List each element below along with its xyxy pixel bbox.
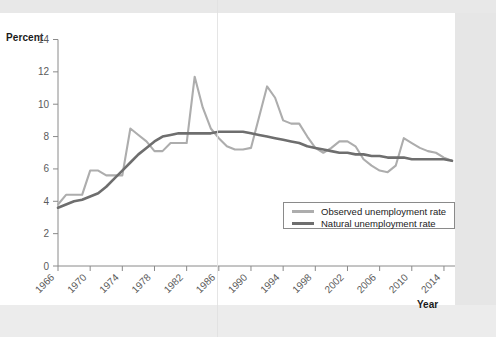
x-tick-label: 1994 [258,271,282,295]
x-tick-label: 1966 [33,271,57,295]
figure-panel: Percent Year 02468101214 196619701974197… [0,13,455,305]
y-tick-label: 4 [43,196,49,207]
x-tick-label: 1998 [290,271,314,295]
screenshot-root: Percent Year 02468101214 196619701974197… [0,0,496,337]
y-tick-label: 14 [38,34,50,45]
series-line-natural [58,132,452,208]
legend-label-observed: Observed unemployment rate [321,206,446,217]
x-tick-label: 1974 [97,271,121,295]
legend-swatch-natural [292,222,314,225]
x-tick-label: 2006 [355,271,379,295]
x-tick-label: 2010 [387,271,411,295]
line-chart: 02468101214 1966197019741978198219861990… [0,13,455,305]
x-tick-label: 2002 [322,271,346,295]
y-tick-label: 12 [38,66,50,77]
x-tick-label: 1970 [65,271,89,295]
y-tick-label: 8 [43,131,49,142]
data-series-group [58,77,452,208]
legend-item-natural: Natural unemployment rate [292,218,454,229]
y-axis-tick-group: 02468101214 [38,34,58,272]
x-tick-label: 1982 [162,271,186,295]
y-tick-label: 0 [43,261,49,272]
legend-item-observed: Observed unemployment rate [292,206,454,217]
x-tick-label: 2014 [419,271,443,295]
chart-legend: Observed unemployment rate Natural unemp… [283,202,455,229]
x-tick-label: 1978 [129,271,153,295]
x-tick-label: 1990 [226,271,250,295]
legend-label-natural: Natural unemployment rate [321,218,436,229]
y-tick-label: 2 [43,228,49,239]
legend-swatch-observed [292,210,314,213]
page-seam-line [217,0,218,337]
series-line-observed [58,77,452,205]
y-tick-label: 10 [38,99,50,110]
page-background-top [0,0,496,13]
y-tick-label: 6 [43,163,49,174]
x-tick-label: 1986 [194,271,218,295]
x-axis-tick-group: 1966197019741978198219861990199419982002… [33,266,444,295]
